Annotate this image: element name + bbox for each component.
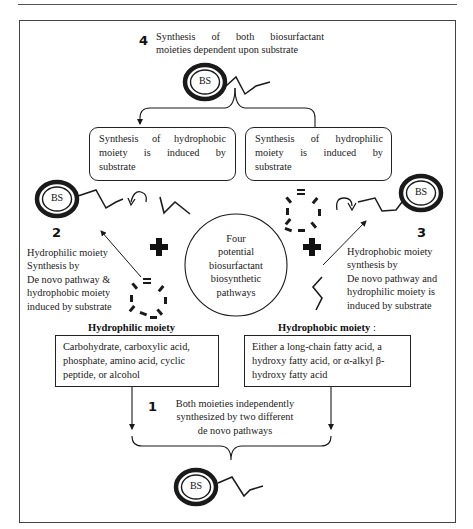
- hydrophilic-ring-left: [129, 278, 167, 319]
- hydrophobic-induced-line-1: Synthesis of hydrophobic: [99, 132, 226, 145]
- pathway-number-3: 3: [417, 225, 426, 240]
- bs-label-top: BS: [191, 75, 219, 86]
- hydrophobic-moiety-line-1: Either a long-chain fatty acid, a: [252, 340, 382, 353]
- pathway-2-line-1: Hydrophilic moiety: [27, 246, 108, 259]
- hydrophilic-moiety-line-3: peptide, or alcohol: [63, 368, 140, 381]
- pathway-number-1: 1: [148, 399, 157, 414]
- pathway-1-line-2: synthesized by two different: [160, 410, 310, 423]
- hydrophilic-ring-right: [284, 189, 321, 232]
- pathway-number-4: 4: [139, 33, 148, 48]
- pathway-3-line-1: Hydrophobic moiety: [347, 245, 433, 258]
- hydrophobic-moiety-line-2: hydroxy fatty acid, or α-alkyl β-: [252, 354, 384, 367]
- pathway-2-line-2: Synthesis by: [27, 259, 79, 272]
- pathway-number-2: 2: [52, 225, 61, 240]
- pathway-4-line-2: moieties dependent upon substrate: [156, 43, 336, 56]
- pathway-2-line-3: De novo pathway &: [27, 273, 110, 286]
- hydrophobic-moiety-box: Either a long-chain fatty acid, a hydrox…: [244, 335, 411, 387]
- center-label-line-5: pathways: [196, 286, 276, 299]
- pathway-2-description: Hydrophilic moiety Synthesis by De novo …: [27, 246, 127, 314]
- pathway-3-line-2: synthesis by: [347, 258, 398, 271]
- hydrophobic-moiety-line-3: hydroxy fatty acid: [252, 368, 328, 381]
- hydrophobic-induced-line-3: substrate: [99, 160, 136, 173]
- hydrophilic-moiety-line-1: Carbohydrate, carboxylic acid,: [63, 340, 190, 353]
- hydrophobic-moiety-header: Hydrophobic moiety: [278, 322, 370, 333]
- plus-icon-right: [303, 238, 321, 256]
- bs-label-bottom: BS: [182, 480, 210, 491]
- hydrophilic-induced-line-3: substrate: [255, 160, 292, 173]
- hydrophilic-moiety-header: Hydrophilic moiety: [88, 322, 175, 333]
- hydrophobic-moiety-header-wrap: Hydrophobic moiety :: [278, 322, 376, 333]
- bs-label-left: BS: [43, 192, 71, 203]
- center-label: Four potential biosurfactant biosyntheti…: [196, 232, 276, 299]
- hydrophilic-induced-box: Synthesis of hydrophilic moiety is induc…: [245, 127, 392, 181]
- hydrophilic-moiety-line-2: phosphate, amino acid, cyclic: [63, 354, 185, 367]
- pathway-2-line-5: induced by substrate: [27, 300, 112, 313]
- plus-icon-left: [150, 238, 168, 256]
- pathway-3-line-3: De novo pathway and: [347, 272, 437, 285]
- pathway-3-line-5: induced by substrate: [347, 299, 432, 312]
- center-label-line-4: biosynthetic: [196, 272, 276, 285]
- pathway-4-line-1: Synthesis of both biosurfactant: [156, 30, 324, 43]
- center-label-line-2: potential: [196, 245, 276, 258]
- pathway-1-line-1: Both moieties independently: [160, 397, 310, 410]
- center-label-line-1: Four: [196, 232, 276, 245]
- pathway-2-line-4: hydrophobic moiety: [27, 286, 110, 299]
- hydrophilic-moiety-box: Carbohydrate, carboxylic acid, phosphate…: [55, 335, 219, 387]
- pathway-3-line-4: hydrophilic moiety is: [347, 285, 435, 298]
- hydrophobic-moiety-header-suffix: :: [370, 322, 376, 333]
- pathway-1-line-3: de novo pathways: [160, 424, 310, 437]
- bs-label-right: BS: [407, 186, 435, 197]
- hydrophobic-induced-line-2: moiety is induced by: [99, 146, 226, 159]
- center-label-line-3: biosurfactant: [196, 259, 276, 272]
- hydrophilic-induced-line-1: Synthesis of hydrophilic: [255, 132, 383, 145]
- hydrophilic-induced-line-2: moiety is induced by: [255, 146, 383, 159]
- hydrophobic-induced-box: Synthesis of hydrophobic moiety is induc…: [89, 127, 236, 181]
